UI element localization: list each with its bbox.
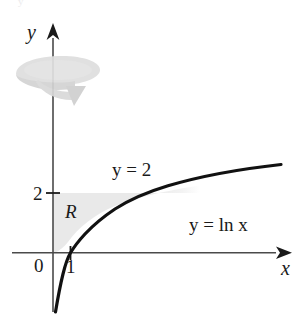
x-axis-label: x <box>281 258 290 278</box>
line-equation-label: y = 2 <box>112 160 151 179</box>
curve-y-equals-ln-x <box>56 165 282 313</box>
rotation-arrow-about-y-axis <box>16 56 100 106</box>
y-tick-label-2: 2 <box>33 184 43 203</box>
figure-canvas <box>0 0 307 319</box>
origin-label: 0 <box>34 256 44 275</box>
revolution-about-y-axis-figure: y <box>0 0 307 319</box>
y-axis-label: y <box>27 22 36 42</box>
x-tick-label-1: 1 <box>66 257 76 276</box>
region-label-R: R <box>65 202 77 221</box>
curve-equation-label: y = ln x <box>189 215 248 234</box>
